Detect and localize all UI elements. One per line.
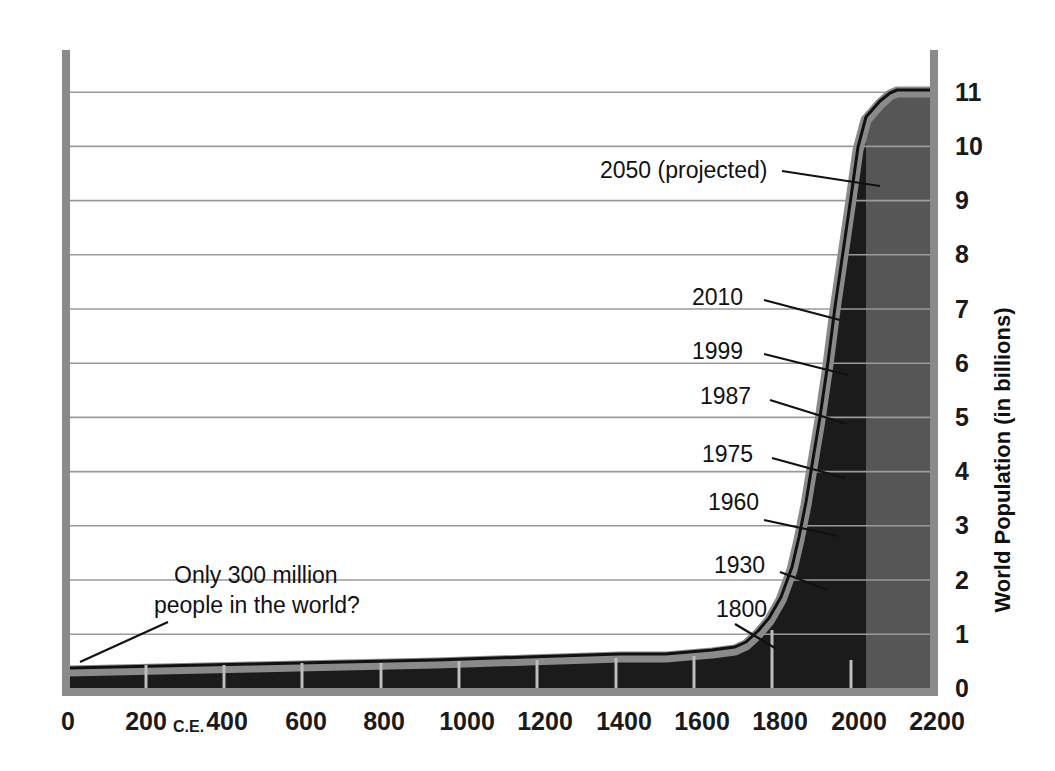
y-tick-11: 11 — [955, 78, 982, 106]
chart-svg: 11 10 9 8 7 6 5 4 3 2 1 0 World Populati… — [0, 0, 1055, 771]
y-tick-2: 2 — [955, 566, 969, 594]
x-tick-200: 200 — [125, 707, 167, 735]
y-axis-right — [930, 50, 938, 690]
annotation-1975-label: 1975 — [702, 441, 753, 467]
y-tick-1: 1 — [955, 620, 969, 648]
annotation-2010-label: 2010 — [692, 284, 743, 310]
x-axis-baseline — [62, 688, 938, 696]
x-tick-800: 800 — [363, 707, 405, 735]
annotation-1999-label: 1999 — [692, 338, 743, 364]
y-tick-9: 9 — [955, 186, 969, 214]
x-tick-2000: 2000 — [831, 707, 887, 735]
x-tick-1800: 1800 — [752, 707, 808, 735]
annotation-300-million-line1: Only 300 million — [174, 562, 338, 588]
annotation-1960-label: 1960 — [708, 489, 759, 515]
world-population-chart: 11 10 9 8 7 6 5 4 3 2 1 0 World Populati… — [0, 0, 1055, 771]
y-tick-7: 7 — [955, 295, 969, 323]
y-axis-title: World Population (in billions) — [990, 307, 1015, 612]
annotation-1800-label: 1800 — [716, 596, 767, 622]
x-tick-400: 400 — [206, 707, 248, 735]
y-tick-8: 8 — [955, 240, 969, 268]
x-tick-1600: 1600 — [674, 707, 730, 735]
x-tick-1000: 1000 — [439, 707, 495, 735]
y-tick-0: 0 — [955, 674, 969, 702]
y-tick-5: 5 — [955, 403, 969, 431]
y-tick-3: 3 — [955, 511, 969, 539]
x-tick-600: 600 — [285, 707, 327, 735]
y-tick-4: 4 — [955, 457, 969, 485]
annotation-2050-projected-label: 2050 (projected) — [600, 157, 768, 183]
y-tick-6: 6 — [955, 349, 969, 377]
x-tick-0: 0 — [61, 707, 75, 735]
x-tick-2200: 2200 — [909, 707, 965, 735]
annotation-1930-label: 1930 — [714, 552, 765, 578]
x-axis-era-note: C.E. — [173, 718, 204, 735]
x-tick-1200: 1200 — [517, 707, 573, 735]
y-tick-10: 10 — [955, 132, 983, 160]
annotation-300-million-line2: people in the world? — [154, 592, 360, 618]
y-axis-left — [62, 50, 70, 690]
annotation-1987-label: 1987 — [700, 383, 751, 409]
x-tick-1400: 1400 — [596, 707, 652, 735]
